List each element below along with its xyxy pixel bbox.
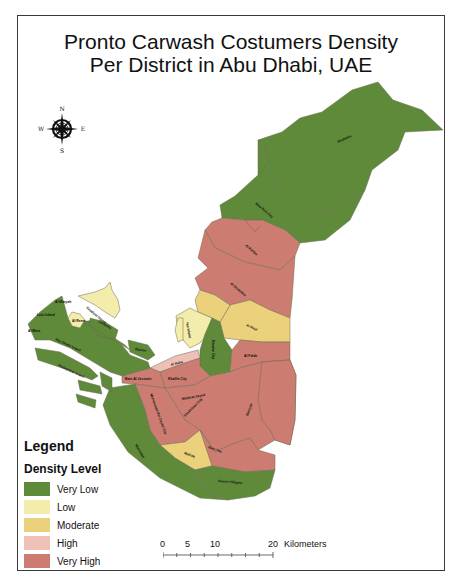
scale-unit: Kilometers [284,539,327,549]
scale-ruler [163,551,277,559]
scale-tick-10: 10 [210,539,220,549]
compass-e: E [81,125,85,132]
label-bain-al-jessrain: Bain Al Jessrain [125,377,151,381]
legend-item-very-low: Very Low [24,480,101,498]
legend-item-moderate: Moderate [24,516,101,534]
district-saadiyat-island[interactable] [78,282,120,318]
legend-item-high: High [24,534,101,552]
label-lulu-island: Lulu Island [37,313,55,317]
legend-subtitle: Density Level [24,462,101,476]
swatch-very-low [24,482,50,496]
legend-title: Legend [24,438,101,454]
legend-label: High [57,538,78,549]
compass-s: S [60,147,64,154]
label-al-maryah: Al Maryah [55,300,71,304]
legend-item-very-high: Very High [24,552,101,570]
scale-tick-5: 5 [185,539,190,549]
swatch-low [24,500,50,514]
legend-label: Low [57,502,75,513]
compass-w: W [38,125,45,132]
compass-n: N [59,105,64,112]
label-al-falah: Al Falah [244,354,257,358]
scale-tick-20: 20 [268,539,278,549]
label-al-mina: Al Mina [28,329,40,333]
legend-label: Very High [57,556,100,567]
label-masdar-city: Masdar City [211,340,215,359]
label-al-reem: Al Reem [72,319,86,323]
district-island-south-1[interactable] [78,380,102,394]
scale-bar: 0 5 10 20 Kilometers [160,539,350,563]
swatch-high [24,536,50,550]
legend-label: Very Low [57,484,98,495]
district-shahama[interactable] [258,82,443,215]
district-island-south-3[interactable] [100,372,112,392]
compass-rose-icon: N S W E [38,103,86,155]
scale-tick-0: 0 [160,539,165,549]
label-khalifa-city: Khalifa City [168,377,187,381]
swatch-very-high [24,554,50,568]
legend-item-low: Low [24,498,101,516]
legend: Legend Density Level Very Low Low Modera… [24,438,101,570]
district-raha-beach-low[interactable] [175,318,183,342]
legend-label: Moderate [57,520,99,531]
swatch-moderate [24,518,50,532]
district-island-south-2[interactable] [76,394,96,408]
